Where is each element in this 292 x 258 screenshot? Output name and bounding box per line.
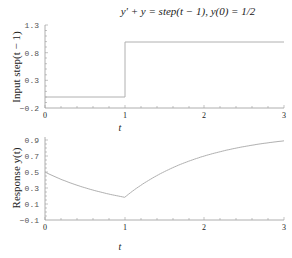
- bottom-ytick-label: 0.9: [25, 136, 40, 145]
- top-y-ticks: [45, 25, 48, 103]
- top-y-label: Input step(t − 1): [10, 31, 23, 103]
- chart-canvas: y' + y = step(t − 1), y(0) = 1/2: [0, 0, 292, 258]
- top-ytick-label: 0.8: [25, 49, 40, 58]
- bottom-ytick-label: 0.5: [25, 168, 40, 177]
- bottom-ytick-label: 0.3: [25, 184, 40, 193]
- top-xtick-label: 1: [123, 111, 127, 120]
- response-series-line: [45, 141, 284, 198]
- top-ytick-label: 1.3: [25, 21, 40, 30]
- bottom-xtick-label: 3: [282, 223, 286, 232]
- bottom-ytick-label: 0.7: [25, 152, 40, 161]
- step-series-line: [45, 42, 284, 97]
- top-x-ticks: [45, 105, 284, 108]
- top-ytick-label: −0.2: [20, 104, 39, 113]
- bottom-ytick-label: −0.1: [20, 216, 39, 225]
- bottom-xtick-label: 1: [123, 223, 127, 232]
- bottom-xtick-label: 2: [202, 223, 206, 232]
- bottom-y-label: Response y(t): [10, 147, 23, 208]
- top-xtick-label: 0: [43, 111, 47, 120]
- top-xtick-label: 3: [282, 111, 286, 120]
- top-plot: 1.3 0.8 0.3 −0.2 0 1 2 3 t Input step(t …: [10, 21, 286, 133]
- chart-title: y' + y = step(t − 1), y(0) = 1/2: [120, 5, 256, 18]
- top-xtick-label: 2: [202, 111, 206, 120]
- bottom-ytick-label: 0.1: [25, 200, 40, 209]
- top-x-label: t: [119, 122, 122, 133]
- bottom-plot: 0.9 0.7 0.5 0.3 0.1 −0.1 0 1 2 3 t Respo…: [10, 136, 286, 252]
- bottom-y-ticks: [45, 140, 48, 216]
- bottom-x-label: t: [119, 241, 122, 252]
- bottom-x-ticks: [45, 217, 284, 220]
- top-ytick-label: 0.3: [25, 76, 40, 85]
- bottom-xtick-label: 0: [43, 223, 47, 232]
